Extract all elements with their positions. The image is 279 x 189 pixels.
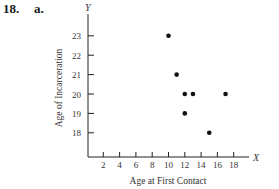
y-ticks: 181920212223 <box>72 31 94 138</box>
data-point <box>183 111 188 116</box>
y-tick-label: 23 <box>72 31 82 41</box>
y-tick-label: 20 <box>72 90 82 100</box>
data-point <box>223 92 228 97</box>
x-axis-letter: X <box>252 152 260 163</box>
x-tick-label: 18 <box>229 160 239 170</box>
data-point <box>207 131 212 136</box>
x-tick-label: 12 <box>180 160 189 170</box>
y-tick-label: 19 <box>72 109 82 119</box>
x-tick-label: 16 <box>213 160 223 170</box>
y-tick-label: 22 <box>72 51 81 61</box>
x-tick-label: 6 <box>134 160 139 170</box>
x-tick-label: 14 <box>197 160 207 170</box>
x-tick-label: 8 <box>150 160 155 170</box>
y-tick-label: 18 <box>72 128 82 138</box>
y-tick-label: 21 <box>72 70 81 80</box>
data-points <box>166 34 228 136</box>
x-axis-title: Age at First Contact <box>130 176 207 186</box>
x-tick-label: 10 <box>164 160 174 170</box>
data-point <box>174 72 179 77</box>
x-ticks: 24681012141618 <box>101 152 239 170</box>
data-point <box>191 92 196 97</box>
y-axis-letter: Y <box>85 2 92 13</box>
y-axis-title: Age of Incarceration <box>54 48 64 127</box>
x-tick-label: 4 <box>117 160 122 170</box>
scatter-chart: Y X 24681012141618 181920212223 Age at F… <box>0 0 279 189</box>
x-tick-label: 2 <box>101 160 106 170</box>
data-point <box>183 92 188 97</box>
data-point <box>166 34 171 39</box>
